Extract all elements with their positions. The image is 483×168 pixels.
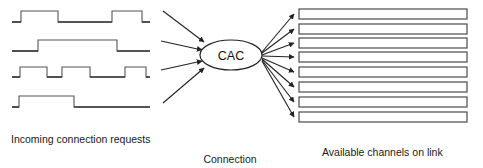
output-arrow-7 [262,60,294,102]
channel-bar-1 [299,9,467,19]
request-signal-1 [12,11,150,22]
request-signal-4-trace [12,96,150,107]
channel-bar-7 [299,97,467,107]
request-signal-3-trace [12,67,150,77]
request-signal-4 [12,96,150,107]
incoming-request-waveforms [12,11,150,107]
input-arrows [161,11,204,103]
available-channel-bars [299,9,467,122]
diagram-page: CAC Incoming connection requests Connect… [0,0,483,168]
request-signal-2-trace [12,40,150,51]
cac-label: CAC [218,49,244,63]
output-arrows [262,14,294,117]
channel-bar-5 [299,67,467,77]
input-arrow-2 [161,41,202,50]
caption-cac-line-1: Connection [188,153,272,166]
output-arrow-6 [262,59,294,87]
cac-node: CAC [200,40,262,70]
channel-bar-6 [299,82,467,92]
input-arrow-4 [163,68,204,103]
input-arrow-3 [161,61,202,70]
request-signal-3 [12,67,150,77]
caption-connection-admission-control: Connection admission control [188,128,272,168]
channel-bar-8 [299,112,467,122]
request-signal-1-trace [12,11,150,22]
channel-bar-4 [299,52,467,62]
input-arrow-1 [163,11,204,42]
request-signal-2 [12,40,150,51]
channel-bar-3 [299,38,467,48]
caption-available-channels-on-link: Available channels on link [322,146,443,159]
channel-bar-2 [299,24,467,34]
output-arrow-4 [262,56,294,57]
caption-incoming-connection-requests: Incoming connection requests [11,133,151,146]
